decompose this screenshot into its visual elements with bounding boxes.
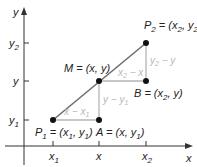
label-x2-minus-x: x2 − x bbox=[117, 67, 144, 79]
point-p1 bbox=[50, 117, 56, 123]
x-axis-arrow-icon bbox=[185, 143, 193, 149]
y-axis-arrow-icon bbox=[21, 7, 27, 15]
x-tick-label: x bbox=[95, 150, 102, 162]
p1-label: P1 = (x1, y1) bbox=[35, 126, 93, 141]
x2-tick-label: x2 bbox=[141, 150, 153, 165]
m-label: M = (x, y) bbox=[64, 62, 110, 74]
p2-label: P2 = (x2, y2) bbox=[144, 19, 197, 34]
y-axis-label: y bbox=[12, 6, 20, 18]
y2-tick-label: y2 bbox=[8, 37, 20, 52]
label-y2-minus-y: y2 − y bbox=[149, 55, 176, 67]
y1-tick-label: y1 bbox=[8, 114, 19, 129]
b-label: B = (x2, y) bbox=[134, 87, 183, 102]
x1-tick-label: x1 bbox=[48, 150, 59, 165]
point-b bbox=[143, 78, 149, 84]
a-label: A = (x, y1) bbox=[95, 126, 145, 141]
label-y-minus-y1: y − y1 bbox=[102, 94, 128, 106]
y-tick-label: y bbox=[12, 75, 20, 87]
point-a bbox=[96, 117, 102, 123]
label-x-minus-x1: x − x1 bbox=[63, 106, 89, 118]
x-axis-label: x bbox=[185, 152, 192, 164]
point-p2 bbox=[143, 40, 149, 46]
point-m bbox=[96, 78, 102, 84]
midpoint-diagram: y x y2 y y1 x1 x x2 x − x1 y − y1 x2 − x… bbox=[0, 0, 197, 167]
